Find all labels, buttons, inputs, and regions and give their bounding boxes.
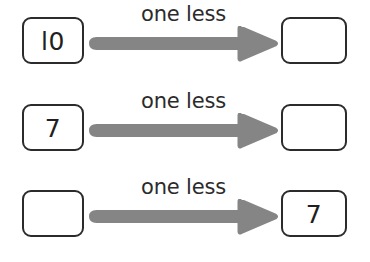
number-box-left[interactable]: 7	[22, 104, 84, 151]
worksheet-row: one less 7	[0, 173, 370, 260]
worksheet: l0 one less 7 one less one les	[0, 0, 370, 262]
arrow-label: one less	[89, 174, 278, 200]
arrow-label: one less	[89, 88, 278, 114]
worksheet-row: 7 one less	[0, 87, 370, 174]
number-box-left[interactable]	[22, 190, 84, 237]
number-box-left-value: 7	[45, 116, 61, 141]
right-arrow-icon	[89, 199, 278, 235]
number-box-right[interactable]: 7	[281, 190, 347, 237]
right-arrow-icon	[89, 113, 278, 149]
arrow-label: one less	[89, 1, 278, 27]
number-box-right[interactable]	[281, 104, 347, 151]
number-box-left[interactable]: l0	[22, 17, 84, 64]
worksheet-row: l0 one less	[0, 0, 370, 87]
right-arrow-icon	[89, 26, 278, 62]
number-box-left-value: l0	[41, 29, 65, 54]
number-box-right[interactable]	[281, 17, 347, 64]
number-box-right-value: 7	[306, 202, 322, 227]
